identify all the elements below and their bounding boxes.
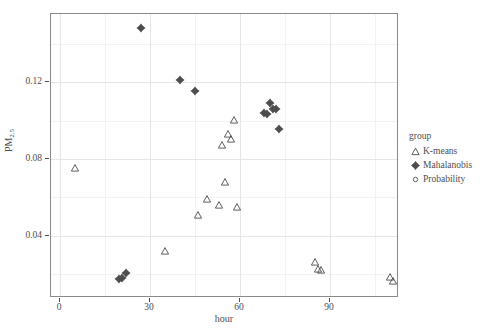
data-point-k-means bbox=[215, 200, 224, 209]
x-tick-mark bbox=[239, 298, 240, 302]
data-point-mahalanobis bbox=[117, 274, 126, 283]
open-triangle-icon bbox=[409, 145, 422, 158]
gridline-horizontal bbox=[51, 236, 397, 237]
y-tick-mark bbox=[45, 81, 49, 82]
legend-title: group bbox=[409, 131, 472, 141]
legend-item-label: Mahalanobis bbox=[423, 160, 472, 170]
y-axis-title-base: PM bbox=[3, 138, 14, 152]
y-tick-label: 0.04 bbox=[0, 230, 42, 240]
gridline-horizontal bbox=[51, 159, 397, 160]
data-point-k-means bbox=[71, 163, 80, 172]
gridline-horizontal-minor bbox=[51, 44, 397, 45]
data-point-k-means bbox=[311, 257, 320, 266]
gridline-vertical bbox=[330, 14, 331, 296]
gridline-vertical-minor bbox=[285, 14, 286, 296]
data-point-mahalanobis bbox=[176, 76, 185, 85]
y-tick-mark bbox=[45, 235, 49, 236]
x-tick-label: 90 bbox=[324, 302, 334, 312]
data-point-k-means bbox=[230, 115, 239, 124]
y-axis-title: PM2.5 bbox=[3, 111, 14, 171]
gridline-vertical bbox=[240, 14, 241, 296]
gridline-horizontal-minor bbox=[51, 274, 397, 275]
gridline-vertical-minor bbox=[105, 14, 106, 296]
legend-item-k-means[interactable]: K-means bbox=[409, 144, 472, 158]
scatter-plot: 0.040.080.12 0306090 hour PM2.5 group K-… bbox=[0, 0, 480, 331]
gridline-horizontal-minor bbox=[51, 197, 397, 198]
gridline-vertical-minor bbox=[195, 14, 196, 296]
gridline-horizontal-minor bbox=[51, 121, 397, 122]
filled-diamond-plus-icon bbox=[409, 159, 422, 172]
data-point-k-means bbox=[314, 265, 323, 274]
legend: group K-meansMahalanobisProbability bbox=[409, 131, 472, 186]
x-axis-title: hour bbox=[50, 313, 398, 324]
x-tick-mark bbox=[149, 298, 150, 302]
data-point-k-means bbox=[317, 265, 326, 274]
legend-item-label: K-means bbox=[423, 146, 457, 156]
legend-item-mahalanobis[interactable]: Mahalanobis bbox=[409, 158, 472, 172]
data-point-k-means bbox=[221, 177, 230, 186]
legend-item-label: Probability bbox=[423, 174, 465, 184]
x-tick-mark bbox=[329, 298, 330, 302]
open-circle-icon bbox=[409, 173, 422, 186]
data-point-k-means bbox=[227, 134, 236, 143]
x-tick-label: 0 bbox=[57, 302, 62, 312]
data-point-k-means bbox=[224, 129, 233, 138]
data-point-mahalanobis bbox=[272, 105, 281, 114]
gridline-horizontal bbox=[51, 82, 397, 83]
data-point-k-means bbox=[161, 247, 170, 256]
data-point-mahalanobis bbox=[275, 125, 284, 134]
x-tick-label: 60 bbox=[234, 302, 244, 312]
legend-items: K-meansMahalanobisProbability bbox=[409, 144, 472, 186]
y-tick-label: 0.12 bbox=[0, 76, 42, 86]
y-axis-title-subscript: 2.5 bbox=[8, 129, 16, 138]
data-point-k-means bbox=[203, 195, 212, 204]
legend-item-probability[interactable]: Probability bbox=[409, 172, 472, 186]
y-tick-mark bbox=[45, 158, 49, 159]
gridline-vertical bbox=[150, 14, 151, 296]
data-point-mahalanobis bbox=[114, 274, 123, 283]
gridline-vertical-minor bbox=[375, 14, 376, 296]
data-point-mahalanobis bbox=[137, 24, 146, 33]
data-point-mahalanobis bbox=[266, 99, 275, 108]
data-point-k-means bbox=[389, 277, 398, 286]
gridline-vertical bbox=[60, 14, 61, 296]
data-point-mahalanobis bbox=[269, 105, 278, 114]
x-tick-mark bbox=[59, 298, 60, 302]
data-point-k-means bbox=[218, 141, 227, 150]
plot-panel bbox=[50, 13, 398, 297]
data-point-mahalanobis bbox=[260, 108, 269, 117]
x-tick-label: 30 bbox=[144, 302, 154, 312]
data-point-mahalanobis bbox=[263, 109, 272, 118]
